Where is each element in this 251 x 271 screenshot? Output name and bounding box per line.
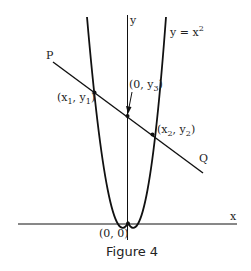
parabola-diagram: y x y = x2 P Q (x1, y1) (0, y3) (x2, y2)… [0,0,251,271]
label-p: P [46,49,54,62]
curve-label: y = x2 [169,24,204,39]
y-axis-label: y [129,14,137,27]
arrowhead-icon [126,106,132,114]
point-1-label: (x1, y1) [57,91,95,106]
label-q: Q [199,152,208,165]
point-2 [151,133,155,137]
point-3 [126,114,130,118]
point-3-label: (0, y3) [129,78,163,93]
x-axis-label: x [230,210,237,223]
origin-label: (0, 0) [99,227,129,240]
parabola-curve [87,17,166,228]
origin-point [126,222,130,226]
figure-caption: Figure 4 [106,244,158,259]
point-2-label: (x2, y2) [157,123,195,138]
